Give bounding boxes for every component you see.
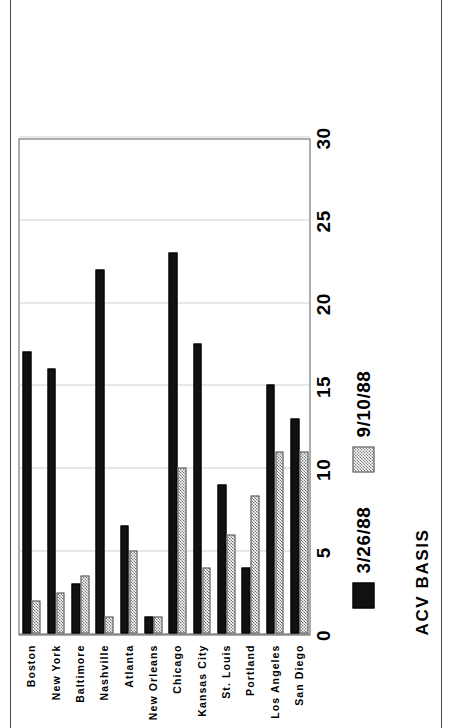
- bar-new-york-series-1: [56, 592, 65, 633]
- category-label-baltimore: Baltimore: [73, 644, 85, 702]
- value-axis: 051015202530: [312, 138, 338, 635]
- category-label-san-diego: San Diego: [292, 644, 304, 705]
- category-axis: BostonNew YorkBaltimoreNashvilleAtlantaN…: [18, 638, 310, 728]
- bar-kansas-city-series-1: [202, 567, 211, 633]
- plot-area: [18, 138, 310, 635]
- legend-item-0[interactable]: 3/26/88: [352, 506, 374, 608]
- value-tick-5: 5: [312, 547, 334, 558]
- solid-black-swatch-icon: [352, 582, 374, 608]
- hatched-gray-swatch-icon: [352, 446, 374, 472]
- gridline-20: [19, 302, 309, 303]
- bar-atlanta-series-1: [129, 550, 138, 633]
- category-label-boston: Boston: [24, 644, 36, 687]
- category-label-new-york: New York: [49, 644, 61, 700]
- category-label-los-angeles: Los Angeles: [268, 644, 280, 718]
- gridline-25: [19, 219, 309, 220]
- bar-nashville-series-1: [104, 616, 113, 633]
- chart-landscape-canvas: 051015202530 BostonNew YorkBaltimoreNash…: [0, 0, 463, 728]
- category-label-st-louis: St. Louis: [219, 644, 231, 698]
- bar-los-angeles-series-1: [275, 451, 284, 633]
- chart-rotation-wrapper: 051015202530 BostonNew YorkBaltimoreNash…: [0, 0, 463, 728]
- bar-baltimore-series-1: [80, 575, 89, 633]
- category-label-kansas-city: Kansas City: [195, 644, 207, 716]
- bar-new-york-series-0: [47, 368, 56, 633]
- bar-kansas-city-series-0: [193, 343, 202, 633]
- bar-st-louis-series-0: [217, 484, 226, 633]
- category-label-new-orleans: New Orleans: [146, 644, 158, 720]
- value-tick-10: 10: [312, 458, 334, 480]
- bar-chicago-series-1: [177, 467, 186, 633]
- category-label-nashville: Nashville: [97, 644, 109, 700]
- legend-item-1[interactable]: 9/10/88: [352, 370, 374, 472]
- bar-nashville-series-0: [95, 269, 104, 633]
- value-tick-30: 30: [312, 127, 334, 149]
- gridline-30: [19, 136, 309, 137]
- category-label-portland: Portland: [243, 644, 255, 695]
- bar-chicago-series-0: [168, 252, 177, 633]
- bar-portland-series-0: [241, 567, 250, 633]
- bar-new-orleans-series-0: [144, 616, 153, 633]
- category-label-chicago: Chicago: [170, 644, 182, 693]
- bar-atlanta-series-0: [120, 525, 129, 633]
- bar-boston-series-1: [31, 600, 40, 633]
- bar-los-angeles-series-0: [266, 385, 275, 634]
- category-label-atlanta: Atlanta: [122, 644, 134, 687]
- bar-boston-series-0: [22, 351, 31, 633]
- value-tick-25: 25: [312, 210, 334, 232]
- bar-san-diego-series-0: [290, 418, 299, 633]
- value-tick-15: 15: [312, 375, 334, 397]
- bar-chart: 051015202530 BostonNew YorkBaltimoreNash…: [0, 0, 463, 728]
- legend-label-1: 9/10/88: [352, 370, 374, 437]
- bar-st-louis-series-1: [226, 534, 235, 633]
- legend: 3/26/88 9/10/88: [352, 370, 374, 608]
- acv-basis-note: ACV BASIS: [412, 528, 432, 635]
- value-tick-0: 0: [312, 629, 334, 640]
- bar-san-diego-series-1: [299, 451, 308, 633]
- bar-new-orleans-series-1: [153, 616, 162, 633]
- legend-label-0: 3/26/88: [352, 506, 374, 573]
- value-tick-20: 20: [312, 293, 334, 315]
- bar-baltimore-series-0: [71, 583, 80, 633]
- bar-portland-series-1: [250, 496, 259, 634]
